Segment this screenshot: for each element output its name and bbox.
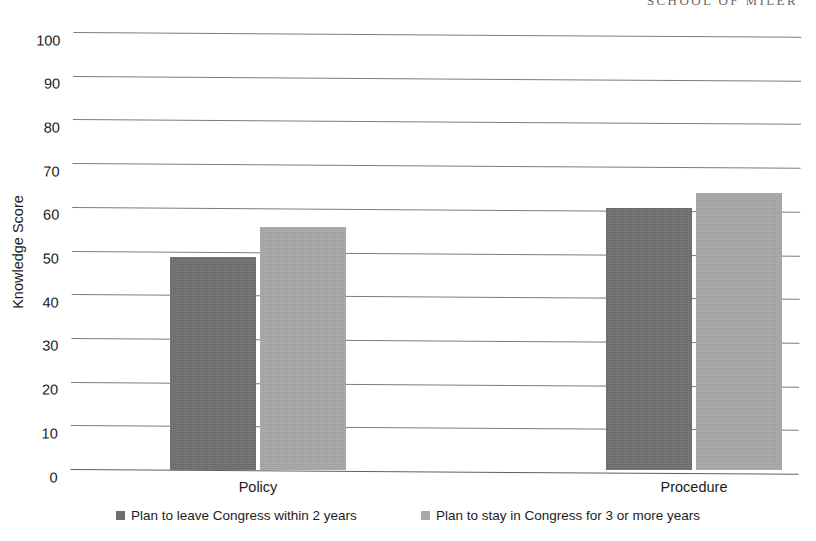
y-axis-tick-label: 0 <box>49 469 70 470</box>
bar <box>260 227 346 470</box>
chart-legend: Plan to leave Congress within 2 yearsPla… <box>0 508 816 523</box>
y-axis-title-label: Knowledge Score <box>10 195 26 309</box>
y-axis-tick-label: 40 <box>43 294 72 295</box>
bar-chart-figure: Knowledge Score 0102030405060708090100 P… <box>0 0 816 541</box>
legend-swatch-icon <box>116 511 125 520</box>
x-axis-category-label: Procedure <box>661 479 728 495</box>
bar-series-group <box>72 33 800 470</box>
y-axis-tick-label: 70 <box>43 163 72 164</box>
y-axis-tick-label: 50 <box>43 251 72 252</box>
legend-label: Plan to stay in Congress for 3 or more y… <box>436 508 700 523</box>
legend-swatch-icon <box>421 511 430 520</box>
legend-item: Plan to leave Congress within 2 years <box>116 508 357 523</box>
legend-label: Plan to leave Congress within 2 years <box>131 508 357 523</box>
y-axis-tick-label: 100 <box>36 32 73 33</box>
y-axis-tick-label: 30 <box>42 338 71 339</box>
bar <box>696 193 782 470</box>
bar <box>606 208 692 470</box>
plot-area: 0102030405060708090100 <box>72 33 800 470</box>
y-axis-tick-label: 10 <box>42 425 71 426</box>
legend-item: Plan to stay in Congress for 3 or more y… <box>421 508 700 523</box>
x-axis-category-label: Policy <box>239 479 278 495</box>
y-axis-tick-label: 80 <box>44 119 73 120</box>
bar <box>170 257 256 470</box>
y-axis-tick-label: 90 <box>44 76 73 77</box>
y-axis-tick-label: 20 <box>42 382 71 383</box>
y-axis-tick-label: 60 <box>43 207 72 208</box>
y-axis-title: Knowledge Score <box>8 33 28 470</box>
